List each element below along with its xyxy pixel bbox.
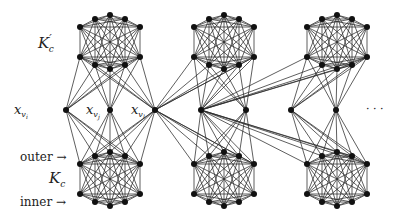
var-xvi-label: xvi [14,102,28,120]
bottom-clique-node [122,199,128,205]
top-clique-node [364,54,370,60]
bottom-clique-node [77,161,83,167]
top-clique-node [251,24,257,30]
top-clique-node [349,62,355,68]
bottom-clique-node [304,161,310,167]
edge [125,65,155,110]
top-clique-node [107,66,113,72]
top-clique-node [221,12,227,18]
top-clique-label: K′c [37,32,54,54]
edge [291,65,322,110]
top-clique-node [304,24,310,30]
variable-node [63,107,69,113]
edge [95,110,155,156]
reduction-diagram: K′c xvi xvj xvl outer → Kc inner → · · · [0,0,399,219]
bottom-clique-label: Kc [48,169,65,189]
bottom-clique-node [92,199,98,205]
bottom-clique-node [137,191,143,197]
top-clique-node [334,12,340,18]
top-clique-node [137,54,143,60]
edge [336,110,337,152]
top-clique-node [206,62,212,68]
bottom-clique-node [137,161,143,167]
top-clique-node [349,16,355,22]
edge [155,57,194,110]
bottom-clique-node [191,191,197,197]
top-clique-node [236,16,242,22]
top-clique-node [304,54,310,60]
bottom-clique-node [221,203,227,209]
edge [336,65,352,110]
variable-node [333,107,339,113]
bottom-clique-node [349,153,355,159]
edge [291,57,307,110]
bottom-clique-node [334,149,340,155]
top-clique-node [251,54,257,60]
bottom-clique-node [349,199,355,205]
bottom-clique-node [236,199,242,205]
bottom-clique-node [92,153,98,159]
edge [246,110,254,164]
edge [336,69,337,110]
top-clique-node [191,24,197,30]
inner-label: inner → [20,195,66,209]
edge [291,110,322,156]
top-clique-node [122,16,128,22]
bottom-clique-node [251,161,257,167]
bottom-clique-node [221,149,227,155]
bottom-clique-node [364,161,370,167]
edge [291,110,307,164]
top-clique-node [319,16,325,22]
bottom-clique-node [206,153,212,159]
top-clique-node [221,66,227,72]
var-xvj-label: xvj [86,102,100,121]
variable-node [243,107,249,113]
bottom-clique-node [364,191,370,197]
top-clique-node [77,24,83,30]
top-clique-node [77,54,83,60]
bottom-clique-node [319,199,325,205]
ellipsis: · · · [366,103,383,116]
top-clique-node [319,62,325,68]
edge [95,65,155,110]
bottom-clique-node [191,161,197,167]
variable-node [198,107,204,113]
top-clique-node [137,24,143,30]
bottom-clique-node [206,199,212,205]
top-clique-node [334,66,340,72]
bottom-clique-node [319,153,325,159]
edge [291,69,337,110]
bottom-clique-node [122,153,128,159]
variable-node [107,107,113,113]
bottom-clique-node [236,153,242,159]
top-clique-node [122,62,128,68]
top-clique-node [92,62,98,68]
var-xvl-label: xvl [131,102,145,120]
variable-node [152,107,158,113]
edge [155,65,209,110]
bottom-clique-node [334,203,340,209]
edge [155,110,209,156]
top-clique-node [206,16,212,22]
edge [155,110,194,164]
top-clique-node [107,12,113,18]
outer-label: outer → [20,150,66,164]
bottom-clique-node [77,191,83,197]
edge [291,110,337,152]
edge [140,57,155,110]
bottom-clique-node [107,149,113,155]
edge [66,57,80,110]
top-clique-node [92,16,98,22]
top-clique-node [191,54,197,60]
edge [66,110,80,164]
bottom-clique-node [304,191,310,197]
top-clique-node [364,24,370,30]
bottom-clique-node [107,203,113,209]
variable-node [288,107,294,113]
top-clique-node [236,62,242,68]
bottom-clique-node [251,191,257,197]
edge [246,57,254,110]
